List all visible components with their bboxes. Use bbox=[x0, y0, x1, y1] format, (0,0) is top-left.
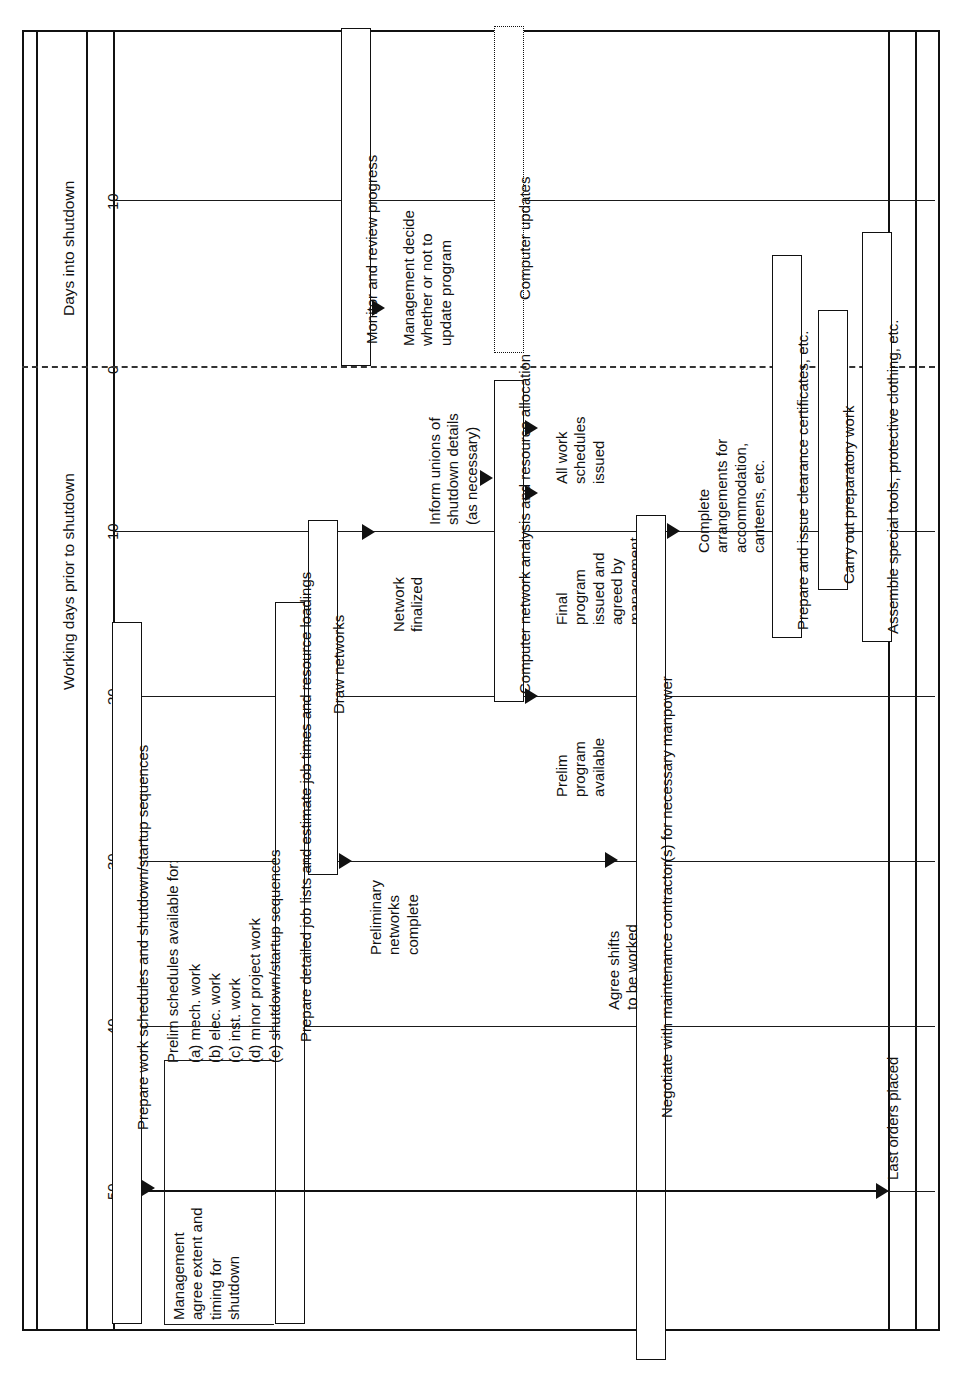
bar-label-special-tools: Assemble special tools, protective cloth… bbox=[884, 320, 902, 634]
prelim-schedules-heading: Prelim schedules available for: bbox=[164, 860, 182, 1063]
bar-label-preparatory-work: Carry out preparatory work bbox=[840, 406, 858, 584]
milestone-marker-preliminary-networks bbox=[339, 853, 352, 869]
frame-cap-top bbox=[22, 30, 940, 32]
milestone-marker-prelim-program bbox=[525, 688, 538, 704]
milestone-label-complete-arrangements: Complete arrangements for accommodation,… bbox=[695, 439, 768, 553]
gridline-30 bbox=[115, 861, 935, 862]
prelim-schedules-group-bottom-rule bbox=[164, 1324, 274, 1325]
prelim-schedules-group-left-rule bbox=[164, 1060, 165, 1324]
milestone-label-all-work-schedules: All work schedules issued bbox=[553, 416, 608, 484]
milestone-label-preliminary-networks: Preliminary networks complete bbox=[367, 880, 422, 955]
prelim-schedules-item-c: (c) inst. work bbox=[226, 978, 244, 1063]
milestone-label-network-finalized: Network finalized bbox=[390, 577, 427, 632]
gantt-chart-canvas: Days into shutdown Working days prior to… bbox=[0, 0, 964, 1390]
prelim-schedules-item-a: (a) mech. work bbox=[186, 964, 204, 1063]
bar-label-computer-updates: Computer updates bbox=[516, 177, 534, 300]
milestone-label-management-agree: Management agree extent and timing for s… bbox=[170, 1207, 243, 1320]
frame-cap-bottom bbox=[22, 1329, 940, 1331]
milestone-marker-network-finalized bbox=[362, 524, 375, 540]
milestone-label-prelim-program: Prelim program available bbox=[553, 738, 608, 797]
frame-top bbox=[22, 30, 24, 1330]
milestone-label-management-decide: Management decide whether or not to upda… bbox=[400, 210, 455, 346]
milestone-marker-all-work-schedules bbox=[525, 420, 538, 436]
milestone-marker-management-agree bbox=[142, 1180, 155, 1196]
prelim-schedules-item-b: (b) elec. work bbox=[206, 973, 224, 1063]
milestone-marker-management-decide bbox=[372, 300, 385, 316]
milestone-marker-agree-shifts bbox=[605, 852, 618, 868]
prelim-schedules-group-top-rule bbox=[164, 1060, 274, 1061]
bar-label-draw-networks: Draw networks bbox=[330, 615, 348, 714]
frame-band-sep-2 bbox=[86, 30, 88, 1330]
milestone-marker-inform-unions bbox=[480, 470, 493, 486]
bar-label-prepare-work-schedules: Prepare work schedules and shutdown/star… bbox=[134, 745, 152, 1130]
milestone-label-final-program: Final program issued and agreed by manag… bbox=[553, 537, 644, 625]
milestone-marker-complete-arrangements bbox=[667, 523, 680, 539]
prelim-schedules-item-e: (e) shutdown/startup sequences bbox=[266, 850, 284, 1063]
prelim-schedules-item-d: (d) minor project work bbox=[246, 918, 264, 1063]
frame-right-3 bbox=[938, 30, 940, 1330]
milestone-marker-final-program bbox=[525, 485, 538, 501]
tick-label-10-into: 10 bbox=[104, 193, 121, 210]
axis-title-days-into-shutdown: Days into shutdown bbox=[60, 181, 78, 316]
frame-band-sep-1 bbox=[36, 30, 38, 1330]
milestone-label-last-orders: Last orders placed bbox=[884, 1057, 902, 1180]
frame-right-2 bbox=[915, 30, 917, 1330]
last-orders-arrow-head bbox=[876, 1183, 889, 1199]
bar-label-computer-network-analysis: Computer network analysis and resource a… bbox=[516, 354, 534, 694]
bar-label-clearance-certificates: Prepare and issue clearance certificates… bbox=[794, 331, 812, 630]
bar-label-prepare-job-lists: Prepare detailed job lists and estimate … bbox=[297, 572, 315, 1042]
axis-title-working-days-prior: Working days prior to shutdown bbox=[60, 473, 78, 690]
last-orders-arrow-line bbox=[142, 1190, 884, 1192]
bar-label-negotiate-contractor: Negotiate with maintenance contractor(s)… bbox=[658, 676, 676, 1118]
milestone-label-agree-shifts: Agree shifts to be worked bbox=[605, 924, 642, 1010]
milestone-label-inform-unions: Inform unions of shutdown details (as ne… bbox=[426, 413, 481, 525]
